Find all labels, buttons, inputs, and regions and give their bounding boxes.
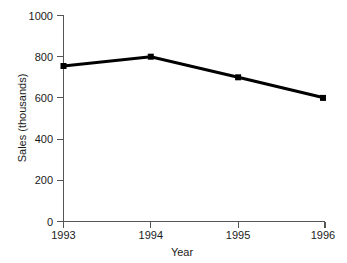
- y-tick-label-400: 400: [35, 133, 53, 145]
- y-tick-label-600: 600: [35, 92, 53, 104]
- data-point-1996: [320, 95, 326, 101]
- x-tick-label-1995: 1995: [226, 229, 250, 241]
- x-axis-title: Year: [171, 246, 194, 258]
- data-point-1993: [61, 63, 67, 69]
- x-tick-label-1993: 1993: [51, 229, 75, 241]
- line-chart-canvas: 1000 800 600 400 200 0 1993 1994 1995 19…: [0, 0, 347, 263]
- x-tick-label-1994: 1994: [139, 229, 163, 241]
- y-tick-label-800: 800: [35, 51, 53, 63]
- y-tick-label-1000: 1000: [29, 10, 53, 22]
- data-point-1995: [235, 74, 241, 80]
- data-point-1994: [148, 54, 154, 60]
- chart-figure: 1000 800 600 400 200 0 1993 1994 1995 19…: [0, 0, 347, 263]
- y-tick-label-200: 200: [35, 174, 53, 186]
- y-tick-label-0: 0: [47, 216, 53, 228]
- x-tick-label-1996: 1996: [311, 229, 335, 241]
- y-axis-title: Sales (thousands): [16, 74, 28, 163]
